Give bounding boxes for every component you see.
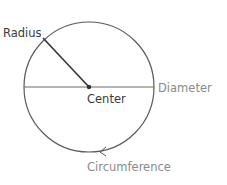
circle-diagram: Radius Center Diameter Circumference xyxy=(0,0,227,185)
diameter-label: Diameter xyxy=(158,81,212,95)
radius-label: Radius xyxy=(3,26,42,40)
radius-line xyxy=(43,38,89,87)
circumference-label: Circumference xyxy=(87,160,171,174)
center-point xyxy=(87,85,91,89)
direction-arrow-icon xyxy=(100,147,106,156)
center-label: Center xyxy=(87,92,126,106)
